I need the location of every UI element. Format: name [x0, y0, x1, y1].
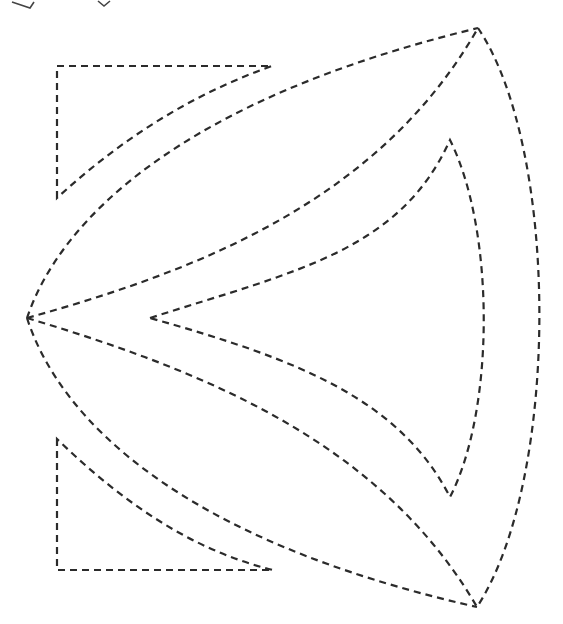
cutting-template — [0, 0, 563, 624]
bottom-left-corner-triangle — [57, 439, 273, 570]
cropped-fragment-right — [98, 1, 110, 6]
upper-lens-inner-arc — [27, 28, 478, 318]
lower-lens-outer-arc — [27, 318, 477, 607]
inner-curved-triangle — [150, 140, 484, 497]
top-left-corner-triangle — [57, 66, 272, 198]
upper-lens-outer-arc — [27, 28, 478, 318]
lower-lens-inner-arc — [27, 318, 477, 607]
right-outer-arc — [477, 28, 539, 607]
cropped-fragment-left — [12, 2, 34, 8]
